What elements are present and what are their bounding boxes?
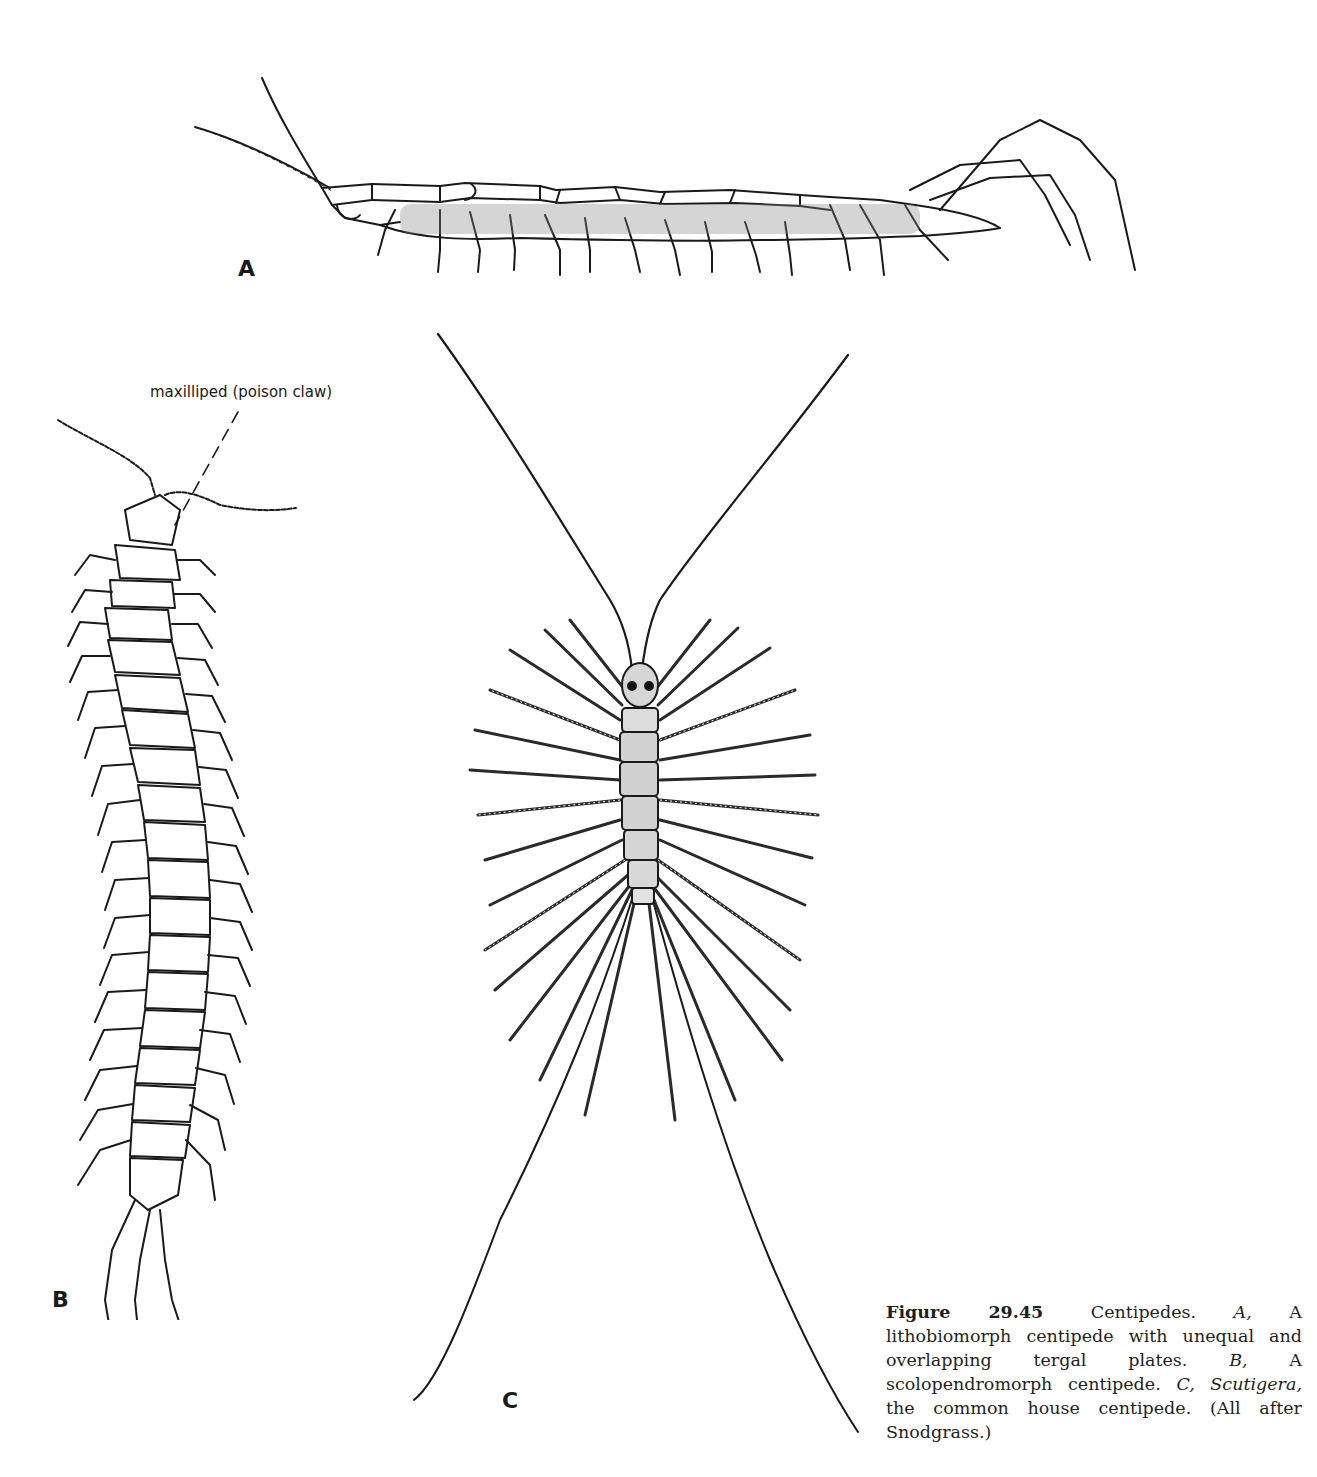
caption-text-c: the common house centipede.	[886, 1398, 1191, 1418]
centipede-b-illustration	[0, 400, 340, 1320]
panel-label-b: B	[52, 1287, 69, 1312]
caption-key-a: A,	[1234, 1302, 1252, 1322]
panel-label-c: C	[502, 1388, 518, 1413]
caption-title: Centipedes.	[1091, 1302, 1196, 1322]
centipede-a-illustration	[0, 0, 1317, 300]
figure-caption: Figure 29.45 Centipedes. A, A lithobiomo…	[886, 1300, 1302, 1444]
figure-29-45: A	[0, 0, 1317, 1477]
caption-genus-c: Scutigera,	[1210, 1374, 1302, 1394]
centipede-c-illustration	[400, 320, 920, 1477]
caption-key-b: B,	[1229, 1350, 1247, 1370]
panel-label-a: A	[238, 256, 255, 281]
caption-key-c: C,	[1176, 1374, 1194, 1394]
figure-number: Figure 29.45	[886, 1302, 1043, 1322]
maxilliped-callout: maxilliped (poison claw)	[150, 383, 332, 401]
